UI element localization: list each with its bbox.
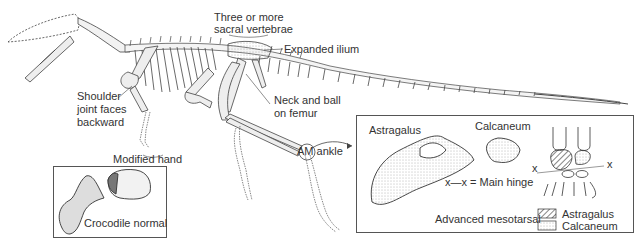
- hinge-marker-left: x: [532, 162, 538, 174]
- neck: [78, 18, 130, 52]
- label-femur-line1: Neck and ball: [274, 94, 341, 106]
- label-am-ankle: AM ankle: [297, 145, 343, 157]
- calcaneum-label: Calcaneum: [475, 120, 531, 132]
- crocodile-caption: Crocodile normal: [84, 217, 167, 229]
- label-shoulder-line1: Shoulder: [77, 90, 121, 102]
- hinge-marker-right: x: [607, 158, 613, 170]
- label-modified-hand: Modified hand: [113, 153, 182, 165]
- label-sacral-line1: Three or more: [214, 11, 284, 23]
- mesotarsal-caption: Advanced mesotarsal: [435, 213, 541, 225]
- legend-label-astragalus: Astragalus: [562, 208, 614, 220]
- forelimb: [140, 112, 150, 148]
- spine: [125, 36, 620, 104]
- mesotarsal-inset: Astragalus Calcaneum x—x = Main hinge Ad…: [356, 115, 634, 233]
- skull: [8, 14, 80, 82]
- label-femur-line2: on femur: [274, 107, 317, 119]
- astragalus-label: Astragalus: [369, 124, 421, 136]
- hinge-note: x—x = Main hinge: [445, 176, 533, 188]
- crocodile-inset: Crocodile normal: [53, 166, 167, 238]
- label-sacral-line2: sacral vertebrae: [214, 23, 293, 35]
- label-expanded-ilium: Expanded ilium: [284, 43, 359, 55]
- label-shoulder-line3: backward: [77, 116, 124, 128]
- label-shoulder-line2: joint faces: [77, 103, 127, 115]
- legend-label-calcaneum: Calcaneum: [562, 220, 618, 232]
